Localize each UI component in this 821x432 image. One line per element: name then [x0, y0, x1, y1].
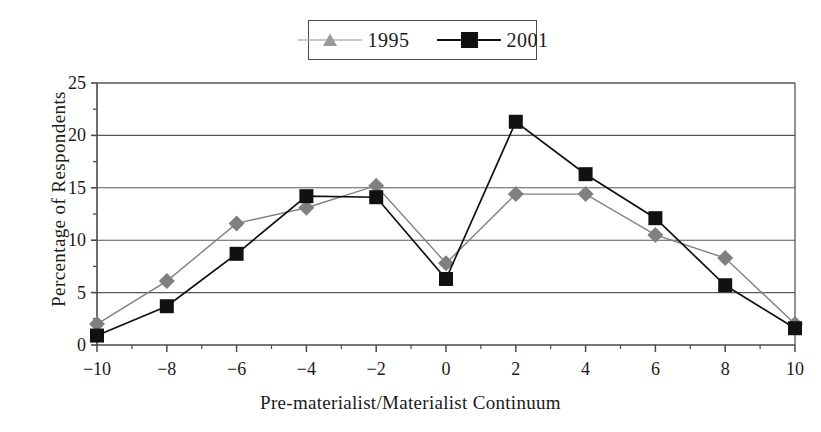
- data-point-square: [230, 247, 244, 261]
- data-point-square: [90, 329, 104, 343]
- plot-area: −10−8−6−4−20246810 0510152025: [0, 0, 821, 432]
- data-point-square: [788, 321, 802, 335]
- y-tick-label: 5: [77, 283, 86, 303]
- y-axis-tick-labels: 0510152025: [68, 73, 86, 355]
- x-tick-label: 10: [786, 359, 804, 379]
- data-point-square: [369, 190, 383, 204]
- data-point-square: [299, 189, 313, 203]
- data-point-diamond: [578, 186, 594, 202]
- chart-figure: 1995 2001 Percentage of Respondents Pre-…: [0, 0, 821, 432]
- x-tick-label: 0: [442, 359, 451, 379]
- data-point-diamond: [229, 215, 245, 231]
- x-tick-label: 2: [511, 359, 520, 379]
- x-tick-label: −10: [83, 359, 111, 379]
- y-tick-label: 20: [68, 125, 86, 145]
- data-point-square: [718, 278, 732, 292]
- data-point-square: [439, 272, 453, 286]
- y-tick-label: 0: [77, 335, 86, 355]
- x-tick-label: −8: [157, 359, 176, 379]
- x-axis-ticks: [97, 345, 795, 352]
- data-point-square: [160, 299, 174, 313]
- series-1995: [89, 178, 803, 332]
- series-line: [97, 186, 795, 324]
- y-axis-ticks: [91, 83, 97, 345]
- x-tick-label: −6: [227, 359, 246, 379]
- x-tick-label: −4: [297, 359, 316, 379]
- y-tick-label: 10: [68, 230, 86, 250]
- y-tick-label: 25: [68, 73, 86, 93]
- y-tick-label: 15: [68, 178, 86, 198]
- data-point-square: [648, 211, 662, 225]
- x-tick-label: −2: [367, 359, 386, 379]
- series-line: [97, 122, 795, 336]
- series-2001: [90, 115, 802, 343]
- data-point-square: [509, 115, 523, 129]
- data-series-layer: [89, 115, 803, 343]
- x-tick-label: 8: [721, 359, 730, 379]
- x-axis-tick-labels: −10−8−6−4−20246810: [83, 359, 804, 379]
- axis-frame: [97, 83, 795, 345]
- data-point-diamond: [159, 273, 175, 289]
- x-tick-label: 4: [581, 359, 590, 379]
- x-tick-label: 6: [651, 359, 660, 379]
- data-point-square: [579, 167, 593, 181]
